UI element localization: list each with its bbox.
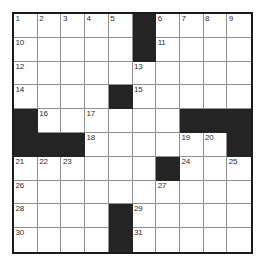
letter-cell[interactable] xyxy=(61,204,85,228)
letter-cell[interactable] xyxy=(180,85,204,109)
letter-cell[interactable]: 15 xyxy=(133,85,157,109)
letter-cell[interactable] xyxy=(61,109,85,133)
letter-cell[interactable] xyxy=(180,204,204,228)
letter-cell[interactable] xyxy=(38,38,62,62)
letter-cell[interactable] xyxy=(227,204,251,228)
letter-cell[interactable] xyxy=(85,228,109,252)
clue-number: 3 xyxy=(63,14,67,24)
letter-cell[interactable] xyxy=(204,157,228,181)
letter-cell[interactable]: 25 xyxy=(227,157,251,181)
letter-cell[interactable] xyxy=(61,181,85,205)
block-cell xyxy=(156,157,180,181)
letter-cell[interactable]: 2 xyxy=(38,14,62,38)
letter-cell[interactable]: 18 xyxy=(85,133,109,157)
letter-cell[interactable] xyxy=(85,62,109,86)
letter-cell[interactable]: 26 xyxy=(14,181,38,205)
letter-cell[interactable] xyxy=(38,228,62,252)
letter-cell[interactable]: 22 xyxy=(38,157,62,181)
block-cell xyxy=(133,14,157,38)
clue-number: 2 xyxy=(39,14,43,24)
letter-cell[interactable]: 4 xyxy=(85,14,109,38)
clue-number: 11 xyxy=(158,38,166,48)
letter-cell[interactable] xyxy=(133,157,157,181)
letter-cell[interactable] xyxy=(156,204,180,228)
letter-cell[interactable] xyxy=(85,204,109,228)
letter-cell[interactable]: 19 xyxy=(180,133,204,157)
letter-cell[interactable] xyxy=(109,133,133,157)
letter-cell[interactable]: 13 xyxy=(133,62,157,86)
letter-cell[interactable]: 8 xyxy=(204,14,228,38)
letter-cell[interactable]: 1 xyxy=(14,14,38,38)
letter-cell[interactable]: 27 xyxy=(156,181,180,205)
clue-number: 1 xyxy=(16,14,20,24)
letter-cell[interactable] xyxy=(180,38,204,62)
letter-cell[interactable] xyxy=(38,85,62,109)
clue-number: 18 xyxy=(87,133,96,143)
letter-cell[interactable]: 24 xyxy=(180,157,204,181)
clue-number: 28 xyxy=(16,204,25,214)
crossword-grid[interactable]: 1234567891011121314151617181920212223242… xyxy=(12,12,253,254)
letter-cell[interactable] xyxy=(227,228,251,252)
letter-cell[interactable] xyxy=(156,228,180,252)
letter-cell[interactable] xyxy=(85,38,109,62)
letter-cell[interactable]: 21 xyxy=(14,157,38,181)
letter-cell[interactable] xyxy=(38,204,62,228)
block-cell xyxy=(61,133,85,157)
letter-cell[interactable] xyxy=(109,62,133,86)
letter-cell[interactable]: 23 xyxy=(61,157,85,181)
letter-cell[interactable]: 6 xyxy=(156,14,180,38)
letter-cell[interactable] xyxy=(38,181,62,205)
letter-cell[interactable] xyxy=(204,204,228,228)
letter-cell[interactable] xyxy=(85,181,109,205)
letter-cell[interactable]: 12 xyxy=(14,62,38,86)
letter-cell[interactable]: 28 xyxy=(14,204,38,228)
letter-cell[interactable]: 14 xyxy=(14,85,38,109)
letter-cell[interactable] xyxy=(109,109,133,133)
letter-cell[interactable] xyxy=(204,85,228,109)
letter-cell[interactable] xyxy=(109,157,133,181)
letter-cell[interactable] xyxy=(180,62,204,86)
letter-cell[interactable] xyxy=(61,228,85,252)
letter-cell[interactable] xyxy=(180,181,204,205)
letter-cell[interactable] xyxy=(204,62,228,86)
letter-cell[interactable] xyxy=(61,62,85,86)
letter-cell[interactable]: 9 xyxy=(227,14,251,38)
letter-cell[interactable]: 5 xyxy=(109,14,133,38)
letter-cell[interactable] xyxy=(38,62,62,86)
letter-cell[interactable] xyxy=(85,85,109,109)
letter-cell[interactable]: 11 xyxy=(156,38,180,62)
letter-cell[interactable] xyxy=(227,62,251,86)
letter-cell[interactable] xyxy=(156,109,180,133)
letter-cell[interactable]: 16 xyxy=(38,109,62,133)
letter-cell[interactable] xyxy=(180,228,204,252)
letter-cell[interactable] xyxy=(227,85,251,109)
letter-cell[interactable]: 10 xyxy=(14,38,38,62)
clue-number: 12 xyxy=(16,62,25,72)
letter-cell[interactable] xyxy=(61,38,85,62)
block-cell xyxy=(180,109,204,133)
crossword-puzzle: 1234567891011121314151617181920212223242… xyxy=(0,0,267,271)
letter-cell[interactable]: 17 xyxy=(85,109,109,133)
letter-cell[interactable] xyxy=(133,109,157,133)
letter-cell[interactable]: 29 xyxy=(133,204,157,228)
letter-cell[interactable] xyxy=(204,228,228,252)
letter-cell[interactable]: 3 xyxy=(61,14,85,38)
letter-cell[interactable] xyxy=(109,38,133,62)
letter-cell[interactable] xyxy=(109,181,133,205)
letter-cell[interactable] xyxy=(133,181,157,205)
clue-number: 24 xyxy=(181,157,190,167)
letter-cell[interactable] xyxy=(156,62,180,86)
letter-cell[interactable] xyxy=(85,157,109,181)
letter-cell[interactable]: 7 xyxy=(180,14,204,38)
letter-cell[interactable] xyxy=(204,181,228,205)
letter-cell[interactable]: 31 xyxy=(133,228,157,252)
letter-cell[interactable] xyxy=(156,85,180,109)
letter-cell[interactable]: 20 xyxy=(204,133,228,157)
letter-cell[interactable] xyxy=(204,38,228,62)
letter-cell[interactable] xyxy=(133,133,157,157)
letter-cell[interactable] xyxy=(227,181,251,205)
letter-cell[interactable] xyxy=(227,38,251,62)
letter-cell[interactable] xyxy=(61,85,85,109)
letter-cell[interactable] xyxy=(156,133,180,157)
letter-cell[interactable]: 30 xyxy=(14,228,38,252)
